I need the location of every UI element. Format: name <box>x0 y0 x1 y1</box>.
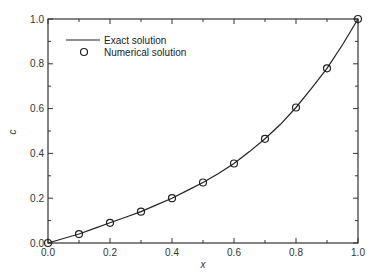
chart: 0.00.20.40.60.81.0 0.00.20.40.60.81.0 x … <box>0 0 376 280</box>
y-axis-label: c <box>7 130 18 135</box>
legend: Exact solution Numerical solution <box>66 35 186 58</box>
legend-label-numerical: Numerical solution <box>104 47 186 58</box>
x-tick-label: 0.0 <box>41 247 55 258</box>
open-circle-icon <box>81 49 88 56</box>
x-axis-label: x <box>200 259 207 270</box>
x-tick-label: 0.2 <box>103 247 117 258</box>
x-tick-label: 1.0 <box>351 247 365 258</box>
y-tick-label: 0.8 <box>30 58 44 69</box>
x-axis-ticks: 0.00.20.40.60.81.0 <box>41 19 365 258</box>
x-tick-label: 0.4 <box>165 247 179 258</box>
exact-solution-line <box>48 19 358 243</box>
legend-label-exact: Exact solution <box>104 35 166 46</box>
y-axis-ticks: 0.00.20.40.60.81.0 <box>30 14 358 249</box>
y-tick-label: 0.6 <box>30 103 44 114</box>
x-tick-label: 0.6 <box>227 247 241 258</box>
y-tick-label: 0.4 <box>30 148 44 159</box>
plot-area <box>45 16 362 247</box>
y-tick-label: 0.0 <box>30 238 44 249</box>
y-tick-label: 1.0 <box>30 14 44 25</box>
x-tick-label: 0.8 <box>289 247 303 258</box>
axes-frame <box>48 19 358 243</box>
y-tick-label: 0.2 <box>30 193 44 204</box>
